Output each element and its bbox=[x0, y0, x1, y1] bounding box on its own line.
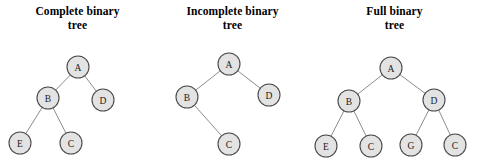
binary-tree-figure: Complete binary tree Incomplete binary t… bbox=[0, 0, 479, 166]
tree-node: C bbox=[360, 135, 382, 157]
tree-node: C bbox=[60, 132, 82, 154]
tree-edge bbox=[354, 111, 366, 136]
tree-edge bbox=[85, 76, 97, 91]
tree-edge bbox=[56, 75, 71, 90]
node-circle bbox=[67, 56, 89, 78]
tree-edge bbox=[439, 110, 451, 135]
tree-node: B bbox=[176, 86, 198, 108]
tree-node: C bbox=[444, 134, 466, 156]
tree-edge bbox=[238, 71, 261, 89]
tree-node: E bbox=[315, 135, 337, 157]
tree-node: D bbox=[258, 84, 280, 106]
node-circle bbox=[218, 53, 240, 75]
tree-node: B bbox=[37, 87, 59, 109]
tree-edge bbox=[196, 71, 221, 90]
tree-incomplete-binary-tree: ABDC bbox=[176, 53, 280, 155]
tree-edge bbox=[358, 75, 383, 94]
tree-graphics-layer: ABDECABDCABDECGC bbox=[0, 0, 479, 166]
node-circle bbox=[176, 86, 198, 108]
tree-edge bbox=[331, 111, 344, 136]
node-circle bbox=[444, 134, 466, 156]
tree-complete-binary-tree: ABDEC bbox=[9, 56, 114, 154]
tree-node: E bbox=[9, 132, 31, 154]
tree-edge bbox=[53, 108, 66, 133]
node-circle bbox=[400, 134, 422, 156]
node-circle bbox=[423, 89, 445, 111]
node-circle bbox=[60, 132, 82, 154]
node-circle bbox=[37, 87, 59, 109]
tree-edge bbox=[416, 110, 429, 135]
node-circle bbox=[218, 133, 240, 155]
tree-edge bbox=[26, 107, 42, 133]
node-circle bbox=[338, 90, 360, 112]
tree-node: A bbox=[380, 57, 402, 79]
tree-node: D bbox=[423, 89, 445, 111]
node-circle bbox=[92, 89, 114, 111]
tree-edge bbox=[400, 75, 425, 94]
tree-node: A bbox=[67, 56, 89, 78]
node-circle bbox=[258, 84, 280, 106]
tree-node: B bbox=[338, 90, 360, 112]
node-circle bbox=[315, 135, 337, 157]
tree-edge bbox=[194, 105, 221, 136]
node-circle bbox=[360, 135, 382, 157]
node-circle bbox=[9, 132, 31, 154]
tree-full-binary-tree: ABDECGC bbox=[315, 57, 466, 157]
node-circle bbox=[380, 57, 402, 79]
tree-node: C bbox=[218, 133, 240, 155]
tree-node: D bbox=[92, 89, 114, 111]
tree-node: G bbox=[400, 134, 422, 156]
tree-node: A bbox=[218, 53, 240, 75]
